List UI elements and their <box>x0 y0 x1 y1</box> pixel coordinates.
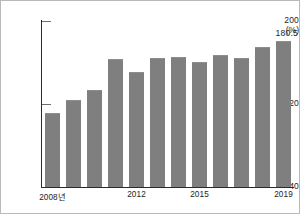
bar-2019 <box>276 41 292 187</box>
bar-2018 <box>255 47 271 187</box>
bar-2010 <box>87 90 103 187</box>
bar-2009 <box>66 100 82 187</box>
bar-chart-figure: (%) 20012040 2008년201220152019 180.5 <box>0 0 300 214</box>
x-axis-tick-label: 2015 <box>170 190 230 199</box>
bar-2017 <box>234 58 250 187</box>
bar-2013 <box>150 58 166 187</box>
bar-2012 <box>129 72 145 187</box>
bar-2016 <box>213 55 229 187</box>
bar-2014 <box>171 57 187 187</box>
bar-2011 <box>108 59 124 187</box>
data-label-2019: 180.5 <box>276 28 299 38</box>
bar-2008 <box>45 113 61 187</box>
x-axis-tick-label: 2012 <box>107 190 167 199</box>
x-axis-tick-label: 2019 <box>254 190 301 199</box>
x-axis-tick-label: 2008년 <box>23 190 83 202</box>
bar-2015 <box>192 62 208 187</box>
plot-area <box>42 19 294 187</box>
x-axis-line <box>41 187 294 188</box>
